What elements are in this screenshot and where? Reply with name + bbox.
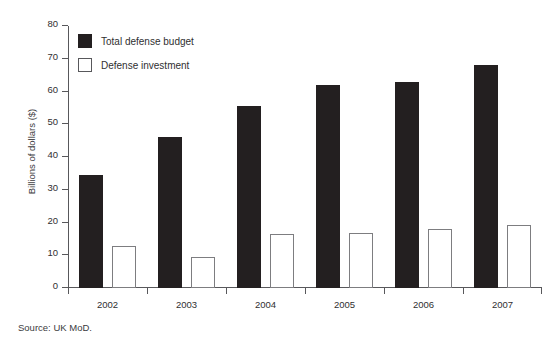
bar-chart-figure: Billions of dollars ($) 0102030405060708… xyxy=(0,0,555,345)
legend-label: Defense investment xyxy=(101,60,189,71)
bar-group: 2004 xyxy=(226,26,305,288)
bar-defense-investment xyxy=(270,234,294,288)
y-axis-tick-label: 0 xyxy=(53,280,58,291)
legend-label: Total defense budget xyxy=(101,36,194,47)
legend-swatch-filled-icon xyxy=(78,34,92,48)
x-axis-tick xyxy=(384,288,385,294)
bar-total-defense-budget xyxy=(474,65,498,288)
x-axis-tick xyxy=(305,288,306,294)
x-axis-tick-label: 2004 xyxy=(226,299,305,310)
bar-total-defense-budget xyxy=(158,137,182,288)
x-axis-tick xyxy=(541,288,542,294)
y-axis-title: Billions of dollars ($) xyxy=(26,52,37,252)
bar-defense-investment xyxy=(191,257,215,288)
bar-defense-investment xyxy=(112,246,136,288)
bar-total-defense-budget xyxy=(316,85,340,288)
y-axis-tick-label: 70 xyxy=(47,51,58,62)
x-axis-tick-label: 2005 xyxy=(305,299,384,310)
y-axis-tick-label: 60 xyxy=(47,84,58,95)
bar-total-defense-budget xyxy=(395,82,419,288)
x-axis-tick-label: 2002 xyxy=(68,299,147,310)
y-axis-tick-label: 10 xyxy=(47,247,58,258)
source-note: Source: UK MoD. xyxy=(18,322,92,333)
bar-total-defense-budget xyxy=(79,175,103,288)
legend-swatch-hollow-icon xyxy=(78,58,92,72)
x-axis-tick xyxy=(463,288,464,294)
x-axis-tick-label: 2003 xyxy=(147,299,226,310)
bar-group: 2005 xyxy=(305,26,384,288)
legend-item-total-defense-budget: Total defense budget xyxy=(78,31,194,51)
bar-group: 2006 xyxy=(384,26,463,288)
legend-item-defense-investment: Defense investment xyxy=(78,55,194,75)
x-axis-tick-label: 2007 xyxy=(463,299,542,310)
x-axis-tick xyxy=(68,288,69,294)
bar-defense-investment xyxy=(428,229,452,288)
x-axis-tick-label: 2006 xyxy=(384,299,463,310)
bar-total-defense-budget xyxy=(237,106,261,288)
chart-legend: Total defense budget Defense investment xyxy=(78,31,194,79)
y-axis-tick-label: 20 xyxy=(47,215,58,226)
y-axis-tick-label: 50 xyxy=(47,116,58,127)
bar-group: 2007 xyxy=(463,26,542,288)
y-axis-tick-label: 80 xyxy=(47,18,58,29)
cut-off-title-strip xyxy=(0,0,555,9)
x-axis-tick xyxy=(226,288,227,294)
y-axis-tick-label: 40 xyxy=(47,149,58,160)
bar-defense-investment xyxy=(349,233,373,288)
x-axis-tick xyxy=(147,288,148,294)
bar-defense-investment xyxy=(507,225,531,288)
y-axis-tick-label: 30 xyxy=(47,182,58,193)
